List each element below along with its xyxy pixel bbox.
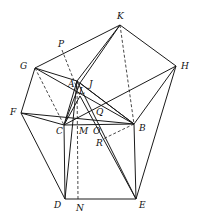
point-label-O: O <box>93 127 100 136</box>
segment-PL <box>62 50 80 96</box>
segment-AK <box>77 25 120 81</box>
point-label-D: D <box>54 201 61 210</box>
segment-EB <box>134 124 136 199</box>
point-label-E: E <box>139 201 146 210</box>
point-label-C: C <box>56 127 63 136</box>
point-label-N: N <box>76 204 84 213</box>
segment-AD <box>65 81 77 199</box>
segment-BR <box>103 124 134 139</box>
segment-LE <box>80 96 136 199</box>
point-label-K: K <box>117 12 124 21</box>
point-label-J: J <box>89 80 93 89</box>
point-label-L: L <box>79 87 85 96</box>
point-label-F: F <box>10 108 16 117</box>
point-label-P: P <box>58 40 64 49</box>
segment-KH <box>120 25 176 66</box>
segment-AN <box>77 81 78 199</box>
segment-HB <box>134 66 176 124</box>
segment-JK <box>80 25 120 83</box>
segment-KB <box>120 25 134 124</box>
point-label-B: B <box>139 124 146 133</box>
segment-CD <box>64 125 65 199</box>
segment-GF <box>21 68 35 113</box>
point-label-Q: Q <box>96 108 103 117</box>
point-label-R: R <box>96 139 103 148</box>
point-label-G: G <box>20 62 27 71</box>
point-label-M: M <box>79 127 88 136</box>
segment-GK <box>35 25 120 68</box>
geometry-diagram: KPGHAJLFQCMOBRDNE <box>0 0 199 218</box>
segment-AE <box>77 81 136 199</box>
point-label-H: H <box>181 62 189 71</box>
point-label-A: A <box>68 80 75 89</box>
